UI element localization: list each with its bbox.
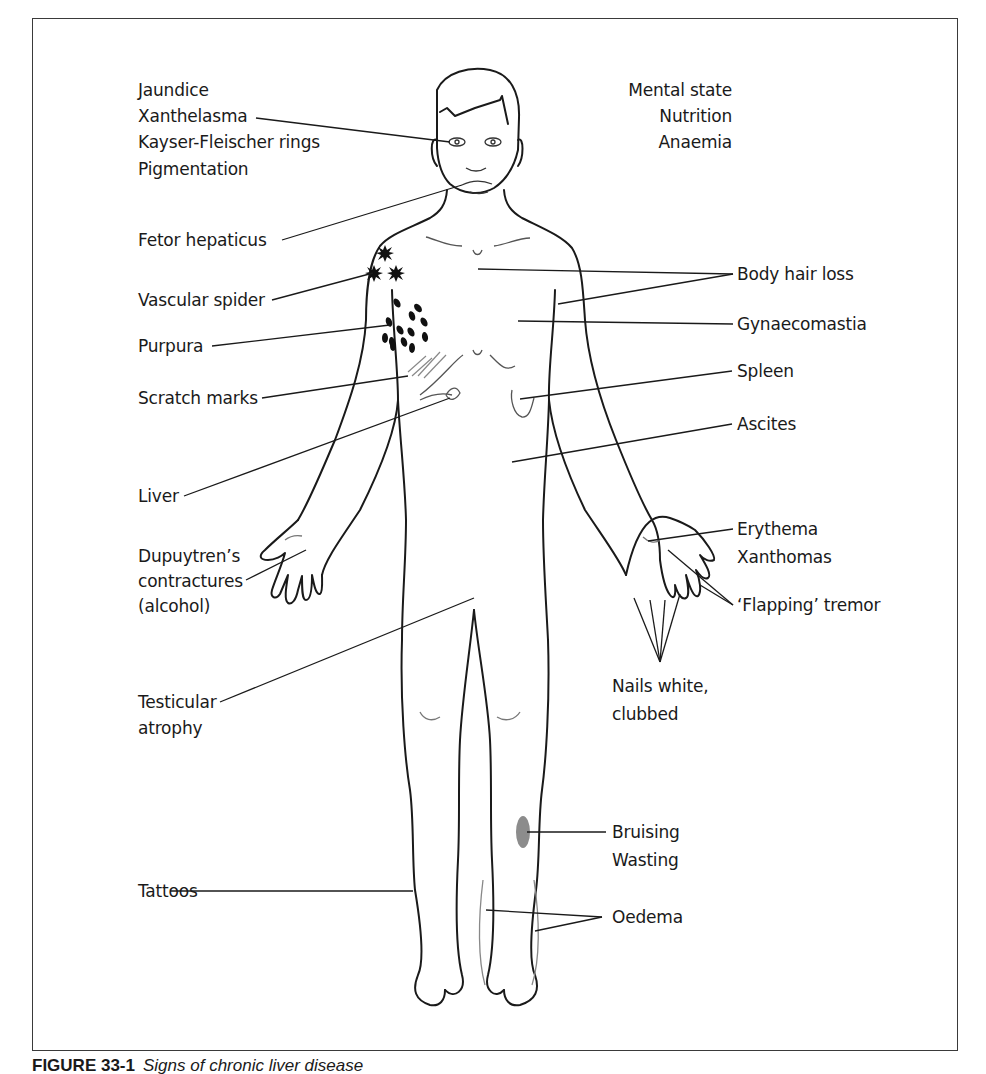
label-xanthomas: Xanthomas (737, 545, 832, 570)
costal-right (490, 355, 515, 368)
label-testicular: Testicular (138, 690, 216, 715)
collarbone-left (426, 237, 462, 246)
waist-right (543, 400, 549, 640)
knee-right (497, 712, 520, 720)
label-clubbed: clubbed (612, 702, 678, 727)
label-spleen: Spleen (737, 359, 794, 384)
label-tattoos: Tattoos (138, 879, 198, 904)
nose (466, 168, 486, 171)
oedema-outline-a (479, 880, 485, 985)
label-nutrition: Nutrition (620, 104, 732, 129)
label-liver: Liver (138, 484, 179, 509)
label-atrophy: atrophy (138, 716, 202, 741)
knee-left (420, 712, 440, 720)
collarbone-right (494, 238, 530, 246)
caption-text: Signs of chronic liver disease (143, 1056, 363, 1074)
right-eye (485, 138, 501, 146)
label-vascular-spider: Vascular spider (138, 288, 265, 313)
left-leg-outer (402, 640, 445, 1005)
label-body-hair-loss: Body hair loss (737, 262, 854, 287)
label-dupuytren-1: Dupuytren’s (138, 544, 240, 569)
label-gynaecomastia: Gynaecomastia (737, 312, 867, 337)
palm-crease-left (285, 536, 302, 540)
left-leg-inner (445, 610, 474, 994)
right-leg-inner (474, 610, 504, 994)
figure-caption: FIGURE 33-1Signs of chronic liver diseas… (32, 1056, 363, 1074)
label-dupuytren-3: (alcohol) (138, 594, 210, 619)
label-oedema: Oedema (612, 905, 683, 930)
mouth (462, 181, 492, 185)
label-pigmentation: Pigmentation (138, 157, 248, 182)
sternal-notch (473, 250, 482, 255)
label-nails-white: Nails white, (612, 674, 708, 699)
label-erythema: Erythema (737, 517, 818, 542)
left-eye (449, 138, 465, 146)
label-dupuytren-2: contractures (138, 569, 243, 594)
label-kayser-fleischer: Kayser-Fleischer rings (138, 130, 320, 155)
label-ascites: Ascites (737, 412, 796, 437)
vascular-spider-icons (365, 245, 405, 282)
label-bruising: Bruising (612, 820, 680, 845)
navel (473, 350, 482, 355)
label-wasting: Wasting (612, 848, 679, 873)
left-arm-inner (322, 290, 398, 575)
caption-number: FIGURE 33-1 (32, 1056, 135, 1074)
label-jaundice: Jaundice (138, 78, 209, 103)
label-anaemia: Anaemia (620, 130, 732, 155)
left-hand (261, 520, 322, 603)
label-xanthelasma: Xanthelasma (138, 104, 248, 129)
hair-line (440, 96, 508, 124)
label-scratch-marks: Scratch marks (138, 386, 258, 411)
label-purpura: Purpura (138, 334, 203, 359)
label-mental-state: Mental state (620, 78, 732, 103)
waist-left (398, 400, 406, 640)
label-flapping-tremor: ‘Flapping’ tremor (737, 593, 880, 618)
torso-right (504, 190, 652, 520)
head-outline (437, 69, 519, 193)
label-fetor-hepaticus: Fetor hepaticus (138, 228, 267, 253)
torso-left (298, 190, 447, 520)
right-arm-inner (549, 290, 626, 575)
spleen-shape (511, 390, 534, 417)
